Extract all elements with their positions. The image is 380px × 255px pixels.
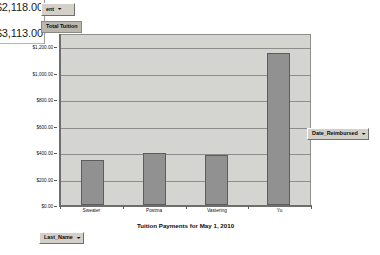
row-field-button[interactable]: Last_Name ▾	[39, 232, 84, 244]
row-field-label: Last_Name	[44, 235, 73, 240]
y-axis-tick-mark	[54, 127, 57, 128]
y-axis-tick-label: $800.00	[36, 98, 53, 103]
page-field-button[interactable]: ent ▾	[41, 3, 75, 16]
x-axis-tick-mark	[60, 206, 61, 209]
bar[interactable]	[205, 155, 228, 205]
y-axis-tick-mark	[54, 180, 57, 181]
bar[interactable]	[143, 153, 166, 205]
series-field-button[interactable]: Total Tuition	[41, 21, 82, 33]
y-axis-tick-labels: $0.00$200.00$400.00$600.00$800.00$1,000.…	[0, 34, 57, 206]
y-axis-tick-label: $1,000.00	[33, 71, 53, 76]
datasheet-value-1: $2,118.00	[0, 1, 43, 13]
y-axis-tick-mark	[54, 100, 57, 101]
y-axis-tick-label: $0.00	[42, 204, 54, 209]
x-axis-tick-mark	[123, 206, 124, 209]
page-field-label: ent	[46, 7, 54, 12]
x-axis-tick-label: Yu	[256, 208, 304, 213]
x-axis-tick-mark	[311, 206, 312, 209]
y-axis-tick-mark	[54, 74, 57, 75]
x-axis-tick-label: Vastering	[193, 208, 241, 213]
x-axis-tick-mark	[186, 206, 187, 209]
y-axis-tick-mark	[54, 153, 57, 154]
column-field-label: Date_Reimbursed	[312, 131, 358, 136]
chart-plot-area[interactable]	[60, 34, 311, 206]
x-axis-tick-label: Sweater	[67, 208, 115, 213]
y-axis-line	[59, 34, 61, 207]
x-axis-tick-label: Postma	[130, 208, 178, 213]
x-axis-tick-mark	[248, 206, 249, 209]
pivot-chart-screenshot: { "datasheet": { "values": ["$2,118.00",…	[0, 0, 380, 255]
chevron-down-icon[interactable]: ▾	[361, 132, 365, 136]
y-axis-tick-label: $400.00	[36, 151, 53, 156]
bar-series	[61, 35, 310, 205]
y-axis-tick-mark	[54, 206, 57, 207]
bar[interactable]	[81, 160, 104, 205]
y-axis-tick-mark	[54, 47, 57, 48]
chevron-down-icon[interactable]: ▾	[58, 8, 62, 12]
chart-title: Tuition Payments for May 1, 2010	[60, 222, 311, 229]
chevron-down-icon[interactable]: ▾	[76, 236, 80, 240]
y-axis-tick-label: $1,200.00	[33, 45, 53, 50]
column-field-button[interactable]: Date_Reimbursed ▾	[307, 128, 369, 140]
y-axis-tick-label: $200.00	[36, 177, 53, 182]
series-field-label: Total Tuition	[46, 24, 78, 29]
y-axis-tick-label: $600.00	[36, 124, 53, 129]
bar[interactable]	[267, 53, 290, 205]
